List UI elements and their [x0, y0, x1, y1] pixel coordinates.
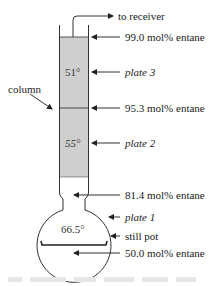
pot-liquid-level — [41, 241, 107, 245]
still-pot-flask — [37, 210, 111, 282]
figure-caption-faded — [8, 277, 208, 283]
plate2-label: plate 2 — [125, 138, 155, 149]
mid-composition-label: 95.3 mol% entane — [125, 103, 205, 114]
plate2-temperature: 55° — [65, 138, 80, 149]
plate1-label: plate 1 — [125, 212, 155, 223]
still-pot-label: still pot — [125, 231, 158, 242]
column-pointer — [30, 94, 52, 109]
receiver-pipe — [73, 16, 113, 37]
column-label: column — [8, 84, 41, 95]
neck-composition-label: 81.4 mol% entane — [125, 190, 205, 201]
plate3-temperature: 51° — [65, 67, 80, 78]
pot-temperature: 66.5° — [61, 224, 85, 235]
to-receiver-label: to receiver — [118, 11, 165, 22]
top-composition-label: 99.0 mol% entane — [125, 32, 205, 43]
pot-composition-label: 50.0 mol% entane — [125, 248, 205, 259]
plate3-label: plate 3 — [125, 67, 155, 78]
column-fill — [60, 37, 88, 177]
